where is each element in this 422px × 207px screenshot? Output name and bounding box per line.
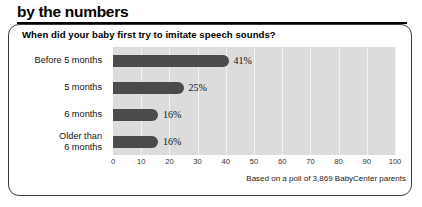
category-label-line1: 5 months [0,82,102,93]
chart-x-tick-label: 20 [165,157,173,166]
chart-x-tick-label: 80 [334,157,342,166]
category-label-line1: 6 months [0,109,102,120]
infographic-page: by the numbers When did your baby first … [0,0,422,207]
chart-source-note: Based on a poll of 3,869 BabyCenter pare… [246,174,406,183]
category-label: 5 months [0,82,102,93]
chart-x-tick-label: 50 [250,157,258,166]
page-title: by the numbers [17,3,128,21]
chart-x-tick-label: 90 [363,157,371,166]
chart-bar [113,82,184,94]
chart-bar-rows: 41% 25% 16% 16% [113,47,395,155]
chart-bar-value-label: 25% [189,82,207,93]
chart-x-tick-label: 0 [111,157,115,166]
category-label-line2: 6 months [0,142,102,153]
chart-x-tick-label: 10 [137,157,145,166]
chart-bar-row: 25% [113,74,395,101]
chart-bar-row: 41% [113,47,395,74]
chart-x-tick-label: 40 [222,157,230,166]
category-label: 6 months [0,109,102,120]
category-label-line1: Before 5 months [0,55,102,66]
chart-x-tick-label: 70 [306,157,314,166]
chart-bar-value-label: 41% [234,55,252,66]
chart-x-tick-label: 30 [193,157,201,166]
category-label: Before 5 months [0,55,102,66]
chart-category-labels: Before 5 months 5 months 6 months Older … [0,47,108,155]
chart-bar [113,109,158,121]
chart-bar-value-label: 16% [163,136,181,147]
chart-bar-value-label: 16% [163,109,181,120]
chart-bar-row: 16% [113,128,395,155]
chart-x-axis: 0102030405060708090100 [113,157,395,169]
chart-x-tick-label: 100 [389,157,402,166]
chart-bar [113,136,158,148]
category-label: Older than 6 months [0,131,102,152]
category-label-line1: Older than [0,131,102,142]
chart-question-title: When did your baby first try to imitate … [22,29,276,40]
chart-bar [113,55,229,67]
chart-x-tick-label: 60 [278,157,286,166]
chart-bar-row: 16% [113,101,395,128]
